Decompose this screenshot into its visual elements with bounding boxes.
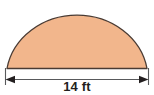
dimension-label: 14 ft (0, 79, 154, 94)
semicircle-shape (7, 15, 147, 68)
figure-container: 14 ft (0, 0, 154, 95)
